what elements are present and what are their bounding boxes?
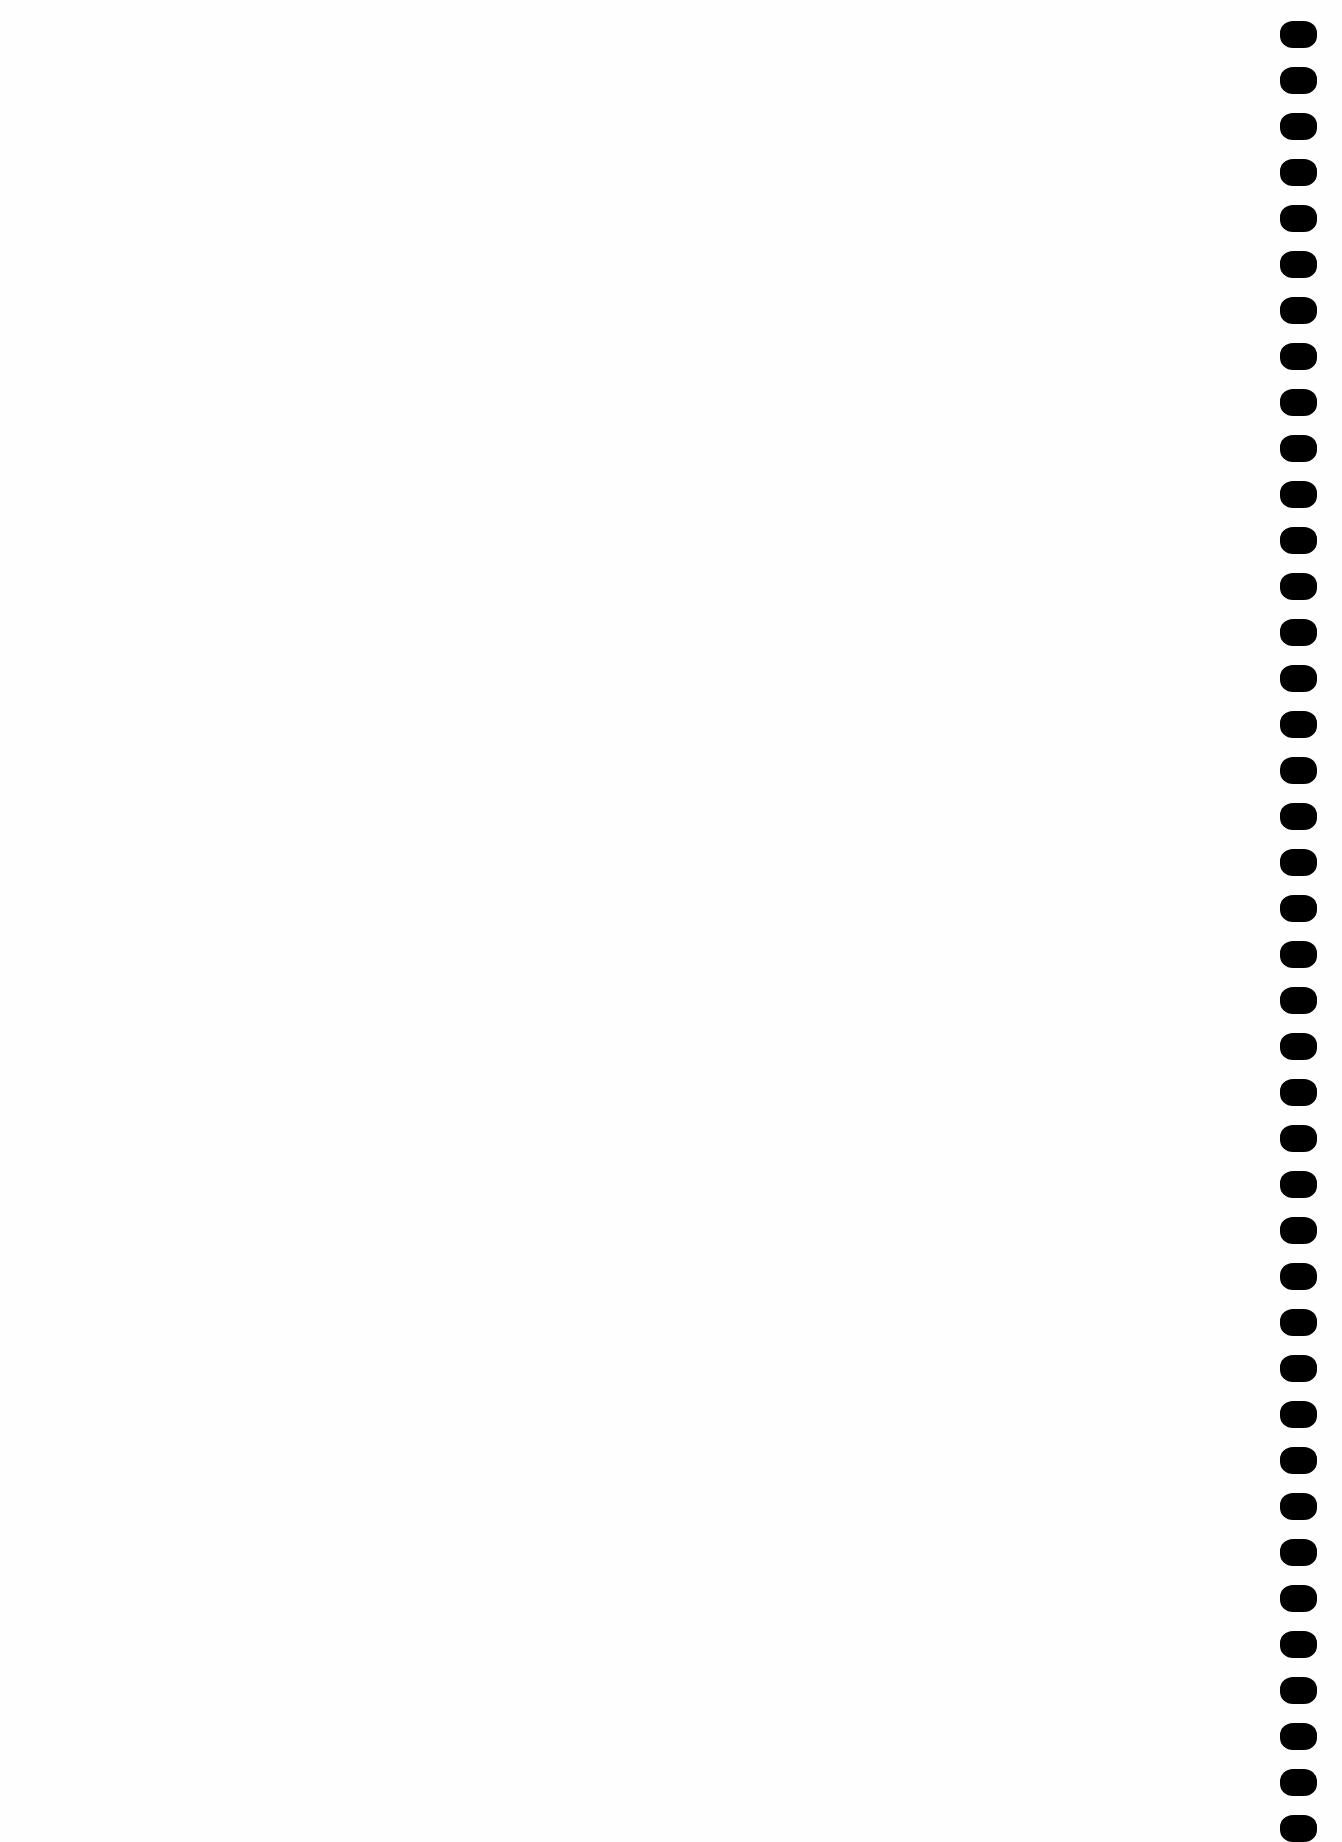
binding-hole bbox=[1280, 1493, 1317, 1520]
binding-holes-strip bbox=[1280, 0, 1320, 1842]
binding-hole bbox=[1280, 251, 1317, 278]
binding-hole bbox=[1280, 343, 1317, 370]
binding-hole bbox=[1280, 1815, 1317, 1842]
binding-hole bbox=[1280, 1769, 1317, 1796]
binding-hole bbox=[1280, 665, 1317, 692]
binding-hole bbox=[1280, 297, 1317, 324]
binding-hole bbox=[1280, 1033, 1317, 1060]
binding-hole bbox=[1280, 987, 1317, 1014]
binding-hole bbox=[1280, 21, 1317, 48]
binding-hole bbox=[1280, 757, 1317, 784]
binding-hole bbox=[1280, 1723, 1317, 1750]
binding-hole bbox=[1280, 1079, 1317, 1106]
binding-hole bbox=[1280, 205, 1317, 232]
binding-hole bbox=[1280, 389, 1317, 416]
binding-hole bbox=[1280, 481, 1317, 508]
binding-hole bbox=[1280, 1447, 1317, 1474]
binding-hole bbox=[1280, 619, 1317, 646]
binding-hole bbox=[1280, 1631, 1317, 1658]
binding-hole bbox=[1280, 573, 1317, 600]
binding-hole bbox=[1280, 711, 1317, 738]
binding-hole bbox=[1280, 1401, 1317, 1428]
binding-hole bbox=[1280, 113, 1317, 140]
binding-hole bbox=[1280, 895, 1317, 922]
blank-notebook-page bbox=[0, 0, 1342, 1842]
binding-hole bbox=[1280, 1677, 1317, 1704]
binding-hole bbox=[1280, 435, 1317, 462]
binding-hole bbox=[1280, 67, 1317, 94]
binding-hole bbox=[1280, 849, 1317, 876]
binding-hole bbox=[1280, 1263, 1317, 1290]
binding-hole bbox=[1280, 1125, 1317, 1152]
binding-hole bbox=[1280, 1585, 1317, 1612]
binding-hole bbox=[1280, 1355, 1317, 1382]
binding-hole bbox=[1280, 1217, 1317, 1244]
binding-hole bbox=[1280, 803, 1317, 830]
binding-hole bbox=[1280, 1539, 1317, 1566]
binding-hole bbox=[1280, 1309, 1317, 1336]
binding-hole bbox=[1280, 941, 1317, 968]
binding-hole bbox=[1280, 159, 1317, 186]
binding-hole bbox=[1280, 527, 1317, 554]
binding-hole bbox=[1280, 1171, 1317, 1198]
